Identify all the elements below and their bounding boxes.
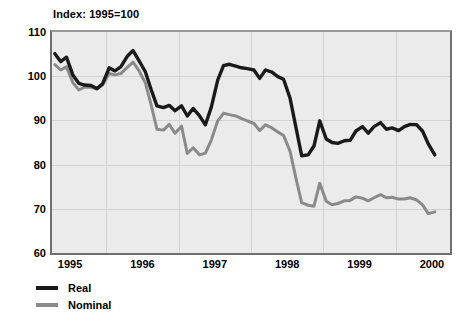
chart-title: Index: 1995=100	[53, 8, 139, 20]
series-line-nominal	[55, 62, 435, 214]
x-axis-tick-label: 1999	[347, 258, 371, 270]
legend-item-real: Real	[36, 279, 236, 296]
x-axis-tick-label: 1998	[275, 258, 299, 270]
x-axis-tick-label: 1995	[58, 258, 82, 270]
x-axis-tick-label: 1997	[203, 258, 227, 270]
x-axis-tick-label: 1996	[130, 258, 154, 270]
legend-item-nominal: Nominal	[36, 296, 236, 313]
chart-container: Index: 1995=100 60708090100110 199519961…	[0, 0, 464, 322]
y-axis-tick-label: 80	[2, 159, 46, 171]
chart-legend: Real Nominal	[36, 279, 236, 313]
y-axis-tick-label: 100	[2, 70, 46, 82]
series-lines	[52, 32, 450, 253]
legend-swatch-nominal	[36, 303, 58, 307]
y-axis-tick-label: 90	[2, 114, 46, 126]
plot-inner	[52, 32, 450, 253]
y-axis-tick-labels: 60708090100110	[0, 0, 46, 322]
y-axis-tick-label: 110	[2, 26, 46, 38]
legend-label-nominal: Nominal	[68, 299, 111, 311]
x-axis-tick-label: 2000	[420, 258, 444, 270]
plot-area	[50, 30, 452, 255]
y-axis-tick-label: 60	[2, 247, 46, 259]
legend-swatch-real	[36, 286, 58, 290]
legend-label-real: Real	[68, 282, 91, 294]
y-axis-tick-label: 70	[2, 203, 46, 215]
series-line-real	[55, 51, 435, 156]
